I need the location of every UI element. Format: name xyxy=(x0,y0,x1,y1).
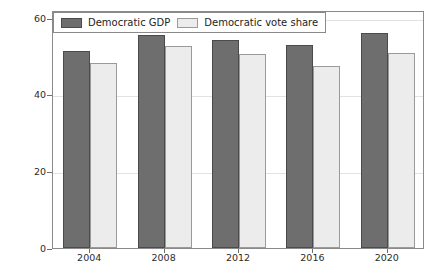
legend-entry-gdp: Democratic GDP xyxy=(61,17,170,28)
y-tick-label: 20 xyxy=(8,166,46,178)
x-tick-mark xyxy=(238,249,239,253)
y-tick-mark xyxy=(47,95,52,96)
x-tick-label-2008: 2008 xyxy=(152,252,176,263)
bar-2004-gdp xyxy=(63,51,90,248)
bar-2012-gdp xyxy=(212,40,239,248)
light-gray-swatch xyxy=(177,18,198,28)
bar-2008-gdp xyxy=(138,35,165,248)
bar-2016-vote-share xyxy=(313,66,340,248)
bar-2020-vote-share xyxy=(388,53,415,248)
x-tick-mark xyxy=(387,249,388,253)
dark-gray-swatch xyxy=(61,18,82,28)
legend-entry-vote-share: Democratic vote share xyxy=(177,17,318,28)
y-tick-label: 0 xyxy=(8,243,46,255)
x-tick-mark xyxy=(89,249,90,253)
x-tick-label-2012: 2012 xyxy=(226,252,250,263)
x-tick-label-2004: 2004 xyxy=(77,252,101,263)
bar-2012-vote-share xyxy=(239,54,266,248)
x-tick-mark xyxy=(312,249,313,253)
bar-2004-vote-share xyxy=(90,63,117,248)
bar-2020-gdp xyxy=(361,33,388,248)
x-tick-label-2016: 2016 xyxy=(300,252,324,263)
chart-legend: Democratic GDPDemocratic vote share xyxy=(53,12,326,33)
plot-area xyxy=(52,11,424,249)
y-tick-mark xyxy=(47,19,52,20)
bar-2016-gdp xyxy=(286,45,313,248)
bar-2008-vote-share xyxy=(165,46,192,248)
x-axis-tick-labels: 20042008201220162020 xyxy=(52,252,424,268)
x-tick-mark xyxy=(164,249,165,253)
y-tick-mark xyxy=(47,249,52,250)
y-tick-label: 40 xyxy=(8,89,46,101)
y-tick-mark xyxy=(47,172,52,173)
legend-label: Democratic vote share xyxy=(204,17,318,28)
y-tick-label: 60 xyxy=(8,13,46,25)
x-tick-label-2020: 2020 xyxy=(375,252,399,263)
bar-chart-figure: Percentage 0204060 20042008201220162020 … xyxy=(0,0,439,276)
legend-label: Democratic GDP xyxy=(88,17,170,28)
y-axis-tick-labels: 0204060 xyxy=(6,0,46,276)
